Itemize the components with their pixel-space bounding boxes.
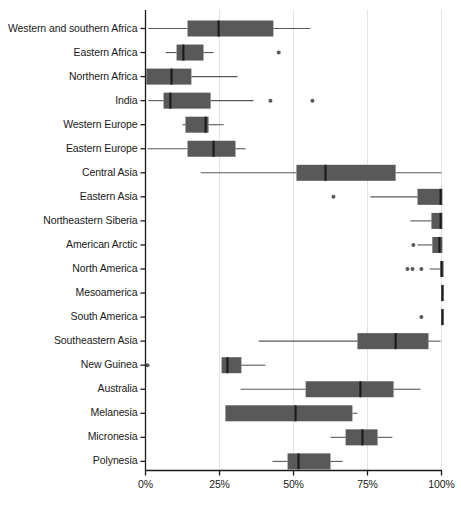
outlier-point — [410, 267, 414, 271]
y-axis-tick-label: India — [115, 94, 137, 106]
y-axis-tick-label: Micronesia — [88, 430, 138, 442]
x-axis-tick-label: 50% — [264, 478, 324, 490]
box-group — [148, 93, 314, 109]
y-axis-tick-label: Southeastern Asia — [54, 334, 138, 346]
x-axis-tick-label: 75% — [338, 478, 398, 490]
box-rect — [222, 357, 242, 373]
y-axis-tick-label: Eastern Asia — [80, 190, 138, 202]
outlier-point — [419, 315, 423, 319]
boxplot-chart: Western and southern AfricaEastern Afric… — [0, 0, 461, 516]
box-group — [146, 357, 266, 373]
box-group — [259, 333, 441, 349]
box-rect — [296, 165, 395, 181]
box-rect — [225, 405, 352, 421]
box-rect — [177, 45, 204, 61]
box-group — [166, 45, 281, 61]
box-group — [442, 285, 444, 301]
box-group — [201, 165, 442, 181]
x-axis-tick-label: 0% — [116, 478, 176, 490]
outlier-point — [411, 243, 415, 247]
x-axis-tick-label: 25% — [190, 478, 250, 490]
y-axis-tick-label: Eastern Africa — [74, 46, 138, 58]
box-group — [419, 309, 443, 325]
y-axis-tick-label: Australia — [98, 382, 138, 394]
box-group — [331, 189, 442, 205]
y-axis-tick-label: Eastern Europe — [66, 142, 138, 154]
outlier-point — [405, 267, 409, 271]
y-axis-tick-label: Central Asia — [82, 166, 137, 178]
gridlines — [220, 10, 442, 471]
y-axis-tick-label: Northeastern Siberia — [43, 214, 137, 226]
box-group — [410, 213, 442, 229]
outlier-point — [146, 363, 150, 367]
box-rect — [418, 189, 443, 205]
y-axis-tick-label: Mesoamerica — [76, 286, 138, 298]
box-rect — [306, 381, 394, 397]
outlier-point — [277, 51, 281, 55]
outlier-point — [331, 195, 335, 199]
box-group — [146, 69, 237, 85]
outlier-point — [419, 267, 423, 271]
box-group — [225, 405, 357, 421]
y-axis-tick-label: Western and southern Africa — [8, 22, 138, 34]
y-axis-tick-label: Polynesia — [93, 454, 138, 466]
box-rect — [288, 453, 331, 469]
y-axis-tick-label: American Arctic — [66, 238, 137, 250]
box-group — [331, 429, 393, 445]
box-group — [405, 261, 443, 277]
outlier-point — [310, 99, 314, 103]
box-group — [183, 117, 224, 133]
box-rect — [432, 237, 442, 253]
box-group — [272, 453, 342, 469]
y-axis-tick-label: Western Europe — [63, 118, 137, 130]
y-axis-tick-label: Melanesia — [91, 406, 138, 418]
box-group — [411, 237, 442, 253]
y-axis-tick-label: South America — [71, 310, 138, 322]
y-axis-tick-label: North America — [72, 262, 137, 274]
box-group — [148, 141, 246, 157]
box-rect — [357, 333, 428, 349]
outlier-point — [268, 99, 272, 103]
y-axis-tick-label: New Guinea — [81, 358, 138, 370]
box-series — [146, 21, 444, 470]
box-group — [148, 21, 310, 37]
box-rect — [146, 69, 191, 85]
x-axis-tick-label: 100% — [412, 478, 461, 490]
y-axis-tick-label: Northern Africa — [69, 70, 138, 82]
box-rect — [188, 141, 236, 157]
box-group — [241, 381, 421, 397]
box-rect — [188, 21, 274, 37]
